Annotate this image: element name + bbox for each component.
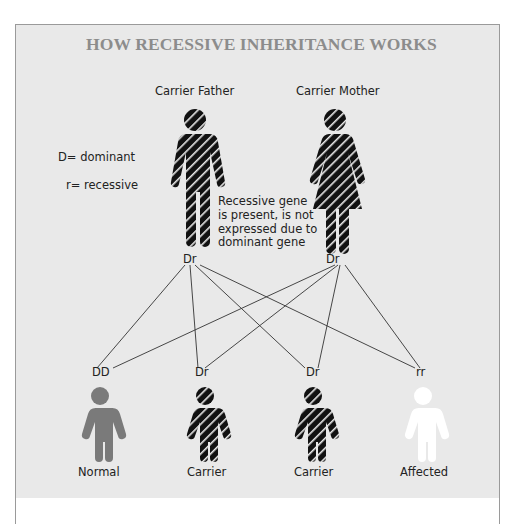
- child-carrier-icon: [187, 387, 231, 462]
- annotation-line: dominant gene: [218, 236, 317, 250]
- child-genotype: Dr: [195, 365, 209, 379]
- father-icon: [171, 109, 225, 247]
- mother-label: Carrier Mother: [296, 84, 380, 98]
- legend-recessive: r= recessive: [66, 178, 138, 192]
- inheritance-lines: [97, 265, 420, 368]
- child-label-carrier: Carrier: [294, 465, 333, 479]
- child-label-affected: Affected: [400, 465, 448, 479]
- child-label-normal: Normal: [78, 465, 120, 479]
- child-genotype: rr: [416, 365, 425, 379]
- mother-genotype: Dr: [326, 252, 340, 266]
- father-label: Carrier Father: [155, 84, 234, 98]
- annotation-line: Recessive gene: [218, 195, 317, 209]
- child-affected-icon: [405, 387, 449, 462]
- father-genotype: Dr: [183, 252, 197, 266]
- child-genotype: DD: [92, 365, 110, 379]
- child-normal-icon: [82, 387, 126, 462]
- diagram-title: HOW RECESSIVE INHERITANCE WORKS: [0, 34, 523, 55]
- annotation-line: expressed due to: [218, 223, 317, 237]
- child-genotype: Dr: [306, 365, 320, 379]
- mother-icon: [310, 109, 365, 254]
- child-label-carrier: Carrier: [187, 465, 226, 479]
- recessive-annotation: Recessive gene is present, is not expres…: [218, 195, 317, 250]
- annotation-line: is present, is not: [218, 209, 317, 223]
- legend-dominant: D= dominant: [58, 150, 135, 164]
- child-carrier-icon: [295, 387, 339, 462]
